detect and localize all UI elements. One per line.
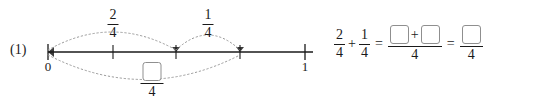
answer-box-numberline-numerator[interactable]: [143, 62, 162, 81]
answer-box-second-addend[interactable]: [421, 25, 440, 44]
answer-box-final-numerator[interactable]: [462, 25, 481, 44]
equation-row: 2 4 + 1 4 = + 4 = 4: [334, 16, 483, 72]
axis-label-one: 1: [295, 60, 315, 73]
fraction-numerator: +: [388, 25, 442, 45]
fraction-two-fourths: 2 4: [108, 8, 119, 40]
arc-label-sum: 4: [141, 62, 164, 100]
fraction-numerator: 2: [334, 28, 345, 43]
fraction-worksheet-problem: (1) 0 1 2 4: [0, 0, 549, 108]
fraction-numerator: [141, 62, 164, 82]
fraction-one-fourth: 1 4: [203, 8, 214, 40]
equals-operator-second: =: [442, 36, 460, 52]
fraction-numerator: [460, 25, 483, 45]
axis-label-zero: 0: [38, 60, 58, 73]
arc-label-two-fourths: 2 4: [108, 8, 119, 40]
fraction-numerator: 2: [108, 8, 119, 23]
answer-box-first-addend[interactable]: [390, 25, 409, 44]
fraction-denominator: 4: [359, 46, 370, 61]
arc-label-one-fourth: 1 4: [203, 8, 214, 40]
equation-fraction-blank-sum: + 4: [388, 25, 442, 63]
fraction-denominator: 4: [108, 26, 119, 41]
equation-fraction-one-fourth: 1 4: [359, 28, 370, 60]
fraction-denominator: 4: [460, 48, 483, 63]
equation-fraction-two-fourths: 2 4: [334, 28, 345, 60]
equals-operator-first: =: [370, 36, 388, 52]
fraction-denominator: 4: [141, 85, 164, 100]
fraction-denominator: 4: [388, 48, 442, 63]
fraction-numerator: 1: [359, 28, 370, 43]
fraction-denominator: 4: [203, 26, 214, 41]
fraction-denominator: 4: [334, 46, 345, 61]
fraction-numerator: 1: [203, 8, 214, 23]
equation-fraction-final-answer: 4: [460, 25, 483, 63]
plus-operator: +: [345, 36, 359, 52]
number-line-diagram: [0, 0, 330, 108]
fraction-sum-blank: 4: [141, 62, 164, 100]
plus-operator-inner: +: [409, 28, 421, 43]
